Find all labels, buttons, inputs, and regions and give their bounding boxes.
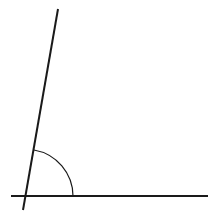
slanted-ray: [23, 9, 58, 210]
angle-figure: [0, 0, 218, 211]
angle-arc: [34, 150, 73, 196]
angle-diagram: [0, 0, 218, 211]
